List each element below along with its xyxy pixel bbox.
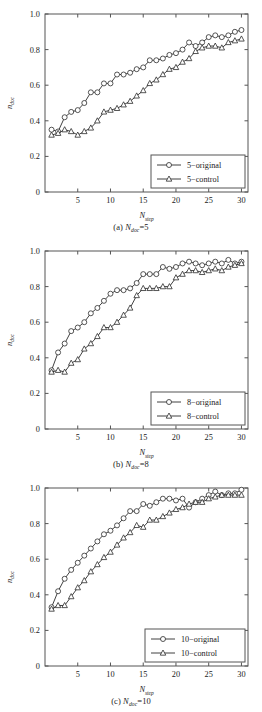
legend-marker	[167, 400, 172, 405]
data-point	[173, 64, 179, 69]
data-point	[101, 532, 106, 537]
y-tick-label: 0.4	[30, 117, 41, 126]
data-point	[62, 341, 67, 346]
data-point	[128, 70, 133, 75]
data-point	[75, 132, 81, 137]
data-point	[147, 272, 152, 277]
data-point	[134, 509, 139, 514]
x-tick-label: 20	[172, 196, 180, 205]
panel-a-caption-value: =5	[139, 222, 148, 232]
data-point	[115, 288, 120, 293]
x-tick-label: 30	[237, 670, 245, 679]
y-tick-label: 0.8	[30, 520, 40, 529]
legend: 8−original8−control	[151, 392, 245, 425]
data-point	[232, 29, 237, 34]
data-point	[160, 496, 165, 501]
panel-c-caption-var: N	[123, 696, 129, 706]
panel-c-caption-prefix: (c)	[111, 696, 123, 706]
data-point	[167, 266, 172, 271]
data-point	[219, 261, 224, 266]
data-point	[167, 52, 172, 57]
data-point	[82, 128, 88, 133]
data-point	[180, 261, 185, 266]
data-point	[134, 281, 139, 286]
data-point	[213, 259, 218, 264]
panel-b-plot: 5101520253000.20.40.60.81.0Nstepndoc8−or…	[0, 237, 262, 474]
data-point	[154, 58, 159, 63]
data-point	[180, 496, 185, 501]
data-point	[55, 367, 61, 372]
data-point	[101, 298, 106, 303]
data-point	[167, 510, 173, 515]
data-point	[101, 81, 106, 86]
data-point	[160, 265, 165, 270]
data-point	[95, 90, 100, 95]
data-point	[154, 77, 160, 82]
y-axis-title: ndoc	[5, 96, 15, 109]
data-point	[88, 311, 93, 316]
svg-text:ndoc: ndoc	[5, 333, 15, 346]
data-point	[62, 115, 67, 120]
y-axis-title: ndoc	[5, 333, 15, 346]
figure-three-panel-line-charts: 5101520253000.20.40.60.81.0Nstepndoc5−or…	[0, 0, 262, 712]
panel-c-plot: 5101520253000.20.40.60.81.0Nstepndoc10−o…	[0, 474, 262, 711]
data-point	[154, 272, 159, 277]
y-tick-label: 0.6	[30, 318, 40, 327]
y-tick-label: 0.4	[30, 354, 41, 363]
x-tick-label: 25	[205, 433, 213, 442]
x-tick-label: 5	[76, 196, 80, 205]
data-point	[226, 33, 231, 38]
data-point	[180, 47, 185, 52]
data-point	[121, 535, 127, 540]
panel-a-caption: (a) Ndoc=5	[0, 222, 262, 232]
data-point	[173, 498, 178, 503]
chart-panel-a: 5101520253000.20.40.60.81.0Nstepndoc5−or…	[0, 0, 262, 237]
data-point	[219, 35, 224, 40]
data-point	[180, 59, 186, 64]
data-point	[75, 560, 80, 565]
x-tick-label: 25	[205, 670, 213, 679]
data-point	[68, 360, 74, 365]
data-point	[147, 80, 153, 85]
data-point	[75, 108, 80, 113]
panel-a-caption-prefix: (a)	[113, 222, 125, 232]
series-line	[52, 30, 242, 131]
svg-text:ndoc: ndoc	[5, 96, 15, 109]
data-point	[82, 346, 88, 351]
data-point	[173, 275, 179, 280]
series-triangle	[49, 492, 244, 611]
data-point	[62, 127, 68, 132]
legend-marker	[161, 637, 166, 642]
x-tick-label: 5	[76, 433, 80, 442]
series-triangle	[49, 260, 244, 374]
series-line	[52, 263, 242, 372]
data-point	[226, 257, 231, 262]
data-point	[108, 291, 113, 296]
data-point	[160, 513, 166, 518]
data-point	[121, 102, 127, 107]
panel-b-caption-prefix: (b)	[113, 459, 125, 469]
series-circle	[49, 257, 244, 372]
data-point	[160, 56, 165, 61]
series-line	[52, 495, 242, 609]
x-tick-label: 20	[172, 433, 180, 442]
data-point	[134, 522, 140, 527]
legend-label: 8−original	[187, 398, 222, 407]
x-tick-label: 10	[106, 433, 114, 442]
y-tick-label: 1.0	[30, 484, 40, 493]
data-point	[128, 286, 133, 291]
data-point	[173, 51, 178, 56]
x-axis-title: Nstep	[138, 211, 154, 222]
data-point	[88, 90, 93, 95]
y-tick-label: 0	[36, 188, 40, 197]
data-point	[56, 589, 61, 594]
data-point	[115, 72, 120, 77]
y-tick-label: 0.2	[30, 626, 40, 635]
data-point	[75, 357, 81, 362]
data-point	[95, 539, 100, 544]
x-tick-label: 5	[76, 670, 80, 679]
data-point	[69, 329, 74, 334]
data-point	[56, 350, 61, 355]
data-point	[187, 40, 192, 45]
panel-a-plot: 5101520253000.20.40.60.81.0Nstepndoc5−or…	[0, 0, 262, 237]
